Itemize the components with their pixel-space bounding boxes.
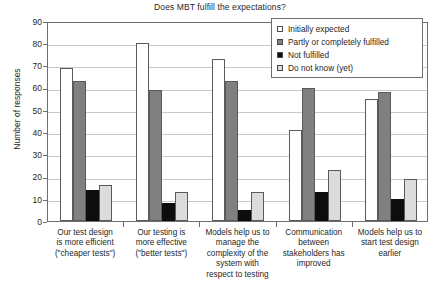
legend-item-label: Initially expected xyxy=(288,24,349,34)
bar-chart-figure: Does MBT fulfill the expectations? 01020… xyxy=(0,0,440,298)
bar xyxy=(175,192,188,221)
bar xyxy=(391,199,404,221)
x-axis-category-label-line: is more efficient xyxy=(47,238,123,248)
y-axis-tick-label: 0 xyxy=(0,218,42,227)
legend-item-label: Not fulfilled xyxy=(288,50,329,60)
bar xyxy=(225,81,238,221)
legend-swatch-lightgray-icon xyxy=(277,65,283,71)
legend-item[interactable]: Not fulfilled xyxy=(277,48,418,61)
y-axis-tick-mark xyxy=(43,222,47,223)
legend-swatch-black-icon xyxy=(277,52,283,58)
legend-item[interactable]: Partly or completely fulfilled xyxy=(277,35,418,48)
x-axis-category-label: Models help us tostart test designearlie… xyxy=(352,228,428,259)
y-axis-title: Number of responses xyxy=(12,34,22,184)
x-axis-category-label-line: Our test design xyxy=(47,228,123,238)
x-axis-category-label-line: Our testing is xyxy=(123,228,199,238)
x-axis-category-label: Models help us tomanage thecomplexity of… xyxy=(199,228,275,280)
x-axis-category-label-line: stakeholders has xyxy=(276,249,352,259)
bar-group xyxy=(124,23,200,221)
x-axis-category-label-line: more effective xyxy=(123,238,199,248)
x-axis-category-label-line: Models help us to xyxy=(352,228,428,238)
bar xyxy=(238,210,251,221)
x-axis-category-labels: Our test designis more efficient("cheape… xyxy=(47,228,428,294)
x-axis-separator xyxy=(352,222,353,227)
bar xyxy=(378,92,391,221)
x-axis-category-label-line: between xyxy=(276,238,352,248)
x-axis-category-label-line: ("better tests") xyxy=(123,249,199,259)
bar xyxy=(251,192,264,221)
legend-item[interactable]: Do not know (yet) xyxy=(277,61,418,74)
bar xyxy=(289,130,302,221)
bar xyxy=(149,90,162,221)
bar-group xyxy=(48,23,124,221)
legend-item-label: Do not know (yet) xyxy=(288,63,353,73)
y-axis-tick-label: 90 xyxy=(0,18,42,27)
x-axis-category-label-line: complexity of the xyxy=(199,249,275,259)
bar xyxy=(328,170,341,221)
legend-item-label: Partly or completely fulfilled xyxy=(288,37,389,47)
bar xyxy=(315,192,328,221)
x-axis-category-label-line: Communication xyxy=(276,228,352,238)
legend-swatch-gray-icon xyxy=(277,39,283,45)
legend-item[interactable]: Initially expected xyxy=(277,22,418,35)
bar xyxy=(60,68,73,221)
x-axis-separator xyxy=(123,222,124,227)
x-axis-category-label-line: ("cheaper tests") xyxy=(47,249,123,259)
x-axis-separator xyxy=(276,222,277,227)
y-axis-tick-label: 10 xyxy=(0,196,42,205)
bar xyxy=(404,179,417,221)
chart-legend: Initially expectedPartly or completely f… xyxy=(271,18,423,78)
bar xyxy=(302,88,315,221)
bar xyxy=(99,185,112,221)
chart-title: Does MBT fulfill the expectations? xyxy=(0,2,440,12)
x-axis-category-label-line: system with xyxy=(199,259,275,269)
x-axis-category-label: Our test designis more efficient("cheape… xyxy=(47,228,123,259)
x-axis-category-label-line: Models help us to xyxy=(199,228,275,238)
bar xyxy=(212,59,225,221)
bar xyxy=(86,190,99,221)
x-axis-category-label-line: start test design xyxy=(352,238,428,248)
x-axis-category-label-line: manage the xyxy=(199,238,275,248)
x-axis-category-label: Our testing ismore effective("better tes… xyxy=(123,228,199,259)
x-axis-category-label-line: improved xyxy=(276,259,352,269)
x-axis-separator xyxy=(199,222,200,227)
bar xyxy=(365,99,378,221)
bar xyxy=(162,203,175,221)
bar-group xyxy=(200,23,276,221)
x-axis-category-label: Communicationbetweenstakeholders hasimpr… xyxy=(276,228,352,270)
bar xyxy=(73,81,86,221)
bar xyxy=(136,43,149,221)
legend-swatch-white-icon xyxy=(277,26,283,32)
x-axis-category-label-line: respect to testing xyxy=(199,270,275,280)
x-axis-category-label-line: earlier xyxy=(352,249,428,259)
